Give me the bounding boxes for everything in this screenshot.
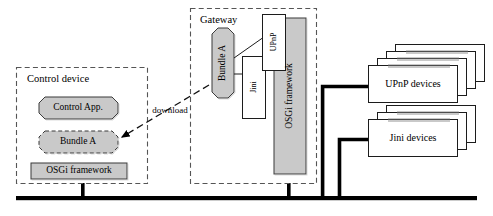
- download-arrow: [122, 85, 209, 137]
- control-bundle-a-node: [39, 131, 118, 153]
- upnp-devices-drop: [323, 87, 369, 198]
- control-device-drop: [81, 183, 85, 197]
- gateway-drop: [287, 183, 291, 197]
- diagram-canvas: Control device Control App. Bundle A OSG…: [0, 0, 493, 216]
- gateway-upnp-node: [263, 15, 286, 71]
- control-osgi-framework-node: [31, 163, 127, 179]
- control-app-node: [39, 97, 118, 119]
- gateway-bundle-a-node: [212, 28, 234, 98]
- bundle-to-upnp-connector: [234, 38, 263, 58]
- jini-devices-drop: [340, 140, 370, 198]
- diagram-vector-layer: [0, 0, 493, 216]
